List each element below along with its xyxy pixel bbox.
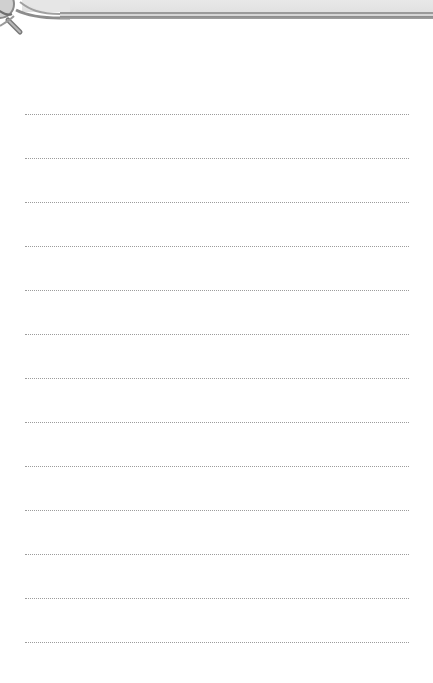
ruled-line <box>25 114 409 115</box>
ruled-line <box>25 290 409 291</box>
ruled-line <box>25 422 409 423</box>
ruled-line <box>25 642 409 643</box>
ruled-line <box>25 598 409 599</box>
ruled-line <box>25 158 409 159</box>
ruled-line <box>25 510 409 511</box>
ruled-line <box>25 378 409 379</box>
ruled-line <box>25 554 409 555</box>
ruled-line <box>25 246 409 247</box>
ruled-line <box>25 202 409 203</box>
ruled-line <box>25 466 409 467</box>
ruled-lines <box>0 0 433 683</box>
ruled-line <box>25 334 409 335</box>
